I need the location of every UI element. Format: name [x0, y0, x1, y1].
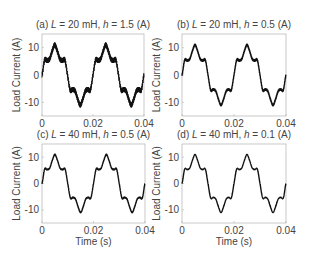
panel-title: (a) L = 20 mH, h = 1.5 (A) [36, 19, 150, 30]
x-axis-label: Time (s) [216, 236, 252, 247]
y-axis-label: Load Current (A) [11, 146, 22, 220]
x-tick-label: 0 [39, 118, 45, 129]
panel-title: (c) L = 40 mH, h = 0.5 (A) [37, 129, 150, 140]
y-tick-label: 10 [28, 42, 40, 53]
x-tick-label: 0.04 [134, 118, 154, 129]
y-axis-label: Load Current (A) [11, 38, 22, 112]
load-current-line [182, 154, 286, 212]
panel-title: (d) L = 40 mH, h = 0.1 (A) [177, 129, 291, 140]
panel-a: (a) L = 20 mH, h = 1.5 (A)100-1000.020.0… [11, 19, 154, 129]
panel-d: (d) L = 40 mH, h = 0.1 (A)100-1000.020.0… [151, 129, 296, 247]
y-tick-label: 0 [33, 178, 39, 189]
figure: (a) L = 20 mH, h = 1.5 (A)100-1000.020.0… [0, 0, 309, 269]
load-current-line [182, 44, 286, 106]
x-tick-label: 0 [179, 225, 185, 236]
x-tick-label: 0 [39, 225, 45, 236]
y-axis-label: Load Current (A) [151, 38, 162, 112]
y-tick-label: -10 [165, 97, 180, 108]
x-tick-label: 0 [179, 118, 185, 129]
x-tick-label: 0.04 [276, 225, 296, 236]
y-axis-label: Load Current (A) [151, 146, 162, 220]
y-tick-label: -10 [25, 97, 40, 108]
y-tick-label: 10 [168, 152, 180, 163]
x-axis-label: Time (s) [75, 236, 111, 247]
x-tick-label: 0.02 [224, 118, 244, 129]
load-current-line [42, 43, 144, 108]
x-tick-label: 0.02 [84, 225, 104, 236]
load-current-line [42, 154, 145, 213]
x-tick-label: 0.02 [83, 118, 103, 129]
x-tick-label: 0.04 [276, 118, 296, 129]
panel-title: (b) L = 20 mH, h = 0.5 (A) [177, 19, 291, 30]
y-tick-label: 10 [168, 42, 180, 53]
y-tick-label: -10 [25, 204, 40, 215]
y-tick-label: -10 [165, 204, 180, 215]
y-tick-label: 0 [33, 70, 39, 81]
panel-b: (b) L = 20 mH, h = 0.5 (A)100-1000.020.0… [151, 19, 296, 129]
y-tick-label: 0 [173, 178, 179, 189]
y-tick-label: 10 [28, 152, 40, 163]
y-tick-label: 0 [173, 70, 179, 81]
x-tick-label: 0.04 [135, 225, 155, 236]
x-tick-label: 0.02 [224, 225, 244, 236]
panel-c: (c) L = 40 mH, h = 0.5 (A)100-1000.020.0… [11, 129, 155, 247]
